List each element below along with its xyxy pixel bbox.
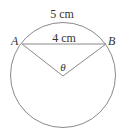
angle-theta-label: θ [60,61,66,73]
point-a-label: A [10,34,19,48]
radius-b [63,44,106,76]
circle-diagram: 5 cm 4 cm A B θ [0,0,123,136]
arc-length-label: 5 cm [50,7,74,21]
radius-a [22,44,63,76]
chord-length-label: 4 cm [52,31,76,45]
point-b-label: B [108,34,116,48]
